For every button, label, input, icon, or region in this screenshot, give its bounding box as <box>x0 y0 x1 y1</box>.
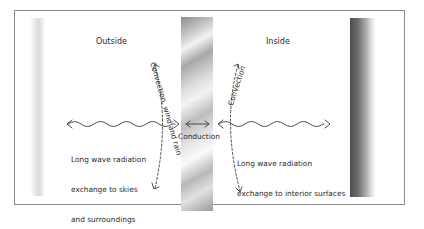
inside-radiation-line-2: exchange to interior surfaces <box>237 189 345 199</box>
outside-label: Outside <box>96 38 127 46</box>
inside-radiation-wave-icon <box>219 122 324 127</box>
inside-label: Inside <box>266 38 290 46</box>
conduction-label: Conduction <box>178 133 220 140</box>
outside-radiation-wave-icon <box>68 122 175 127</box>
arrows-layer <box>0 0 424 229</box>
outside-radiation-text: Long wave radiation exchange to skies an… <box>71 135 146 229</box>
outside-radiation-line-2: exchange to skies <box>71 185 146 195</box>
outside-radiation-line-1: Long wave radiation <box>71 155 146 165</box>
inside-radiation-line-1: Long wave radiation <box>237 159 345 169</box>
inside-radiation-text: Long wave radiation exchange to interior… <box>237 139 345 209</box>
outside-radiation-line-3: and surroundings <box>71 215 146 225</box>
